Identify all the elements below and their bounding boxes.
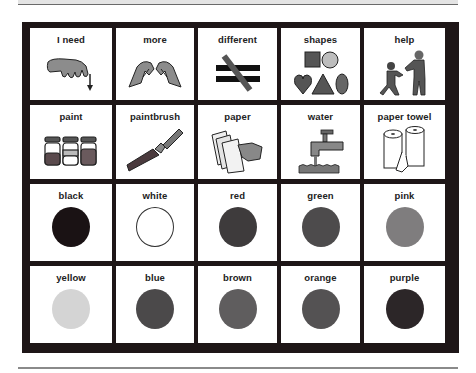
color-circle-icon — [386, 289, 424, 329]
color-circle-icon — [386, 207, 424, 247]
paper-towel-roll-icon — [380, 126, 430, 176]
symbol-cell-red[interactable]: red — [198, 184, 277, 261]
symbol-cell-green[interactable]: green — [281, 184, 360, 261]
symbol-cell-blue[interactable]: blue — [116, 266, 194, 343]
top-divider — [18, 0, 458, 5]
people-helping-icon — [377, 49, 433, 97]
symbol-cell-more[interactable]: more — [116, 28, 194, 100]
hand-pointing-down-icon — [42, 52, 100, 94]
symbol-label: different — [218, 34, 257, 45]
symbol-label: orange — [304, 272, 336, 283]
symbol-cell-shapes[interactable]: shapes — [281, 28, 360, 100]
symbol-label: more — [143, 34, 167, 45]
symbol-cell-paintbrush[interactable]: paintbrush — [116, 105, 194, 179]
symbol-cell-help[interactable]: help — [364, 28, 445, 100]
symbol-label: pink — [395, 190, 415, 201]
symbol-label: brown — [223, 272, 252, 283]
bottom-divider — [18, 367, 458, 369]
symbol-label: paintbrush — [130, 111, 180, 122]
symbol-cell-different[interactable]: different — [198, 28, 277, 100]
symbol-cell-paper-towel[interactable]: paper towel — [364, 105, 445, 179]
symbol-label: purple — [390, 272, 420, 283]
symbol-cell-paper[interactable]: paper — [198, 105, 277, 179]
shapes-icon — [293, 50, 349, 96]
color-circle-icon — [136, 289, 174, 329]
color-circle-icon — [302, 207, 340, 247]
paint-jars-icon — [42, 135, 100, 167]
symbol-label: paint — [59, 111, 82, 122]
symbol-label: paper — [224, 111, 250, 122]
symbol-cell-pink[interactable]: pink — [364, 184, 445, 261]
color-circle-icon — [52, 207, 90, 247]
symbol-label: black — [59, 190, 84, 201]
symbol-cell-paint[interactable]: paint — [30, 105, 112, 179]
color-circle-icon — [136, 207, 174, 247]
paper-sheets-icon — [208, 127, 268, 175]
symbol-cell-water[interactable]: water — [281, 105, 360, 179]
color-circle-icon — [219, 289, 257, 329]
symbol-cell-brown[interactable]: brown — [198, 266, 277, 343]
symbol-label: blue — [145, 272, 165, 283]
faucet-icon — [297, 128, 345, 174]
symbol-label: green — [307, 190, 333, 201]
hands-together-icon — [125, 53, 185, 93]
symbol-cell-yellow[interactable]: yellow — [30, 266, 112, 343]
color-circle-icon — [302, 289, 340, 329]
symbol-label: yellow — [56, 272, 86, 283]
symbol-cell-black[interactable]: black — [30, 184, 112, 261]
color-circle-icon — [219, 207, 257, 247]
symbol-cell-orange[interactable]: orange — [281, 266, 360, 343]
paintbrush-icon — [125, 127, 185, 175]
symbol-label: red — [230, 190, 245, 201]
symbol-label: white — [143, 190, 168, 201]
communication-board: I need more different — [22, 22, 459, 353]
symbol-cell-i-need[interactable]: I need — [30, 28, 112, 100]
symbol-cell-purple[interactable]: purple — [364, 266, 445, 343]
symbol-label: water — [308, 111, 333, 122]
symbol-label: shapes — [304, 34, 337, 45]
symbol-label: paper towel — [378, 111, 432, 122]
symbol-label: help — [395, 34, 415, 45]
symbol-cell-white[interactable]: white — [116, 184, 194, 261]
not-equal-icon — [214, 53, 262, 93]
symbol-label: I need — [57, 34, 85, 45]
color-circle-icon — [52, 289, 90, 329]
